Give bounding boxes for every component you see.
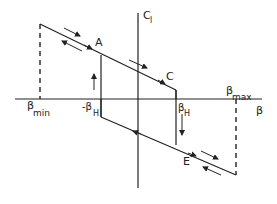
arrow-lower-backward-icon (203, 167, 221, 175)
upper-branch-line (40, 24, 176, 90)
neg-beta-h-label: -β (82, 101, 92, 112)
beta-min-sub: min (33, 108, 50, 118)
arrow-lower-forward-icon (201, 151, 218, 159)
y-axis-label-sub: l (150, 16, 152, 25)
label-e: E (183, 155, 190, 168)
beta-max-sub: max (232, 92, 252, 102)
label-c: C (166, 70, 174, 83)
x-axis-label: β (256, 104, 263, 117)
arrow-lower-left-icon (133, 131, 141, 134)
arrow-upper-forward-icon (64, 28, 80, 36)
label-a: A (95, 36, 103, 49)
beta-h-sub: H (184, 109, 190, 118)
neg-beta-h-sub: H (93, 109, 99, 118)
lower-branch-line (101, 117, 236, 175)
arrow-upper-on-line-icon (84, 45, 92, 49)
hysteresis-diagram: A C E C l β β min β max -β H β H (0, 0, 277, 204)
